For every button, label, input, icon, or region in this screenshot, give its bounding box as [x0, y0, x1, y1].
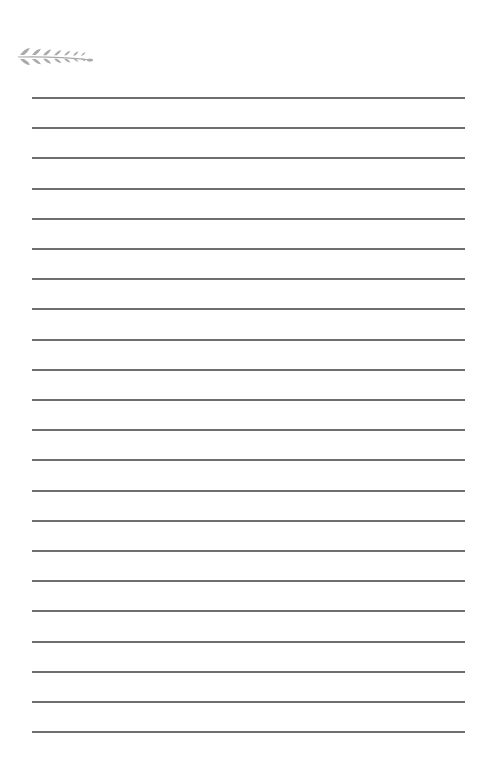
rule-line [32, 520, 465, 522]
rule-line [32, 97, 465, 99]
rule-line [32, 308, 465, 310]
rule-line [32, 731, 465, 733]
rule-line [32, 701, 465, 703]
rule-line [32, 369, 465, 371]
rule-line [32, 641, 465, 643]
rule-line [32, 248, 465, 250]
rule-line [32, 188, 465, 190]
rule-line [32, 490, 465, 492]
rule-line [32, 218, 465, 220]
rule-line [32, 459, 465, 461]
rule-line [32, 550, 465, 552]
rule-line [32, 127, 465, 129]
rule-line [32, 429, 465, 431]
ruled-lines [32, 0, 465, 764]
rule-line [32, 580, 465, 582]
rule-line [32, 671, 465, 673]
rule-line [32, 610, 465, 612]
rule-line [32, 339, 465, 341]
rule-line [32, 157, 465, 159]
rule-line [32, 399, 465, 401]
rule-line [32, 278, 465, 280]
